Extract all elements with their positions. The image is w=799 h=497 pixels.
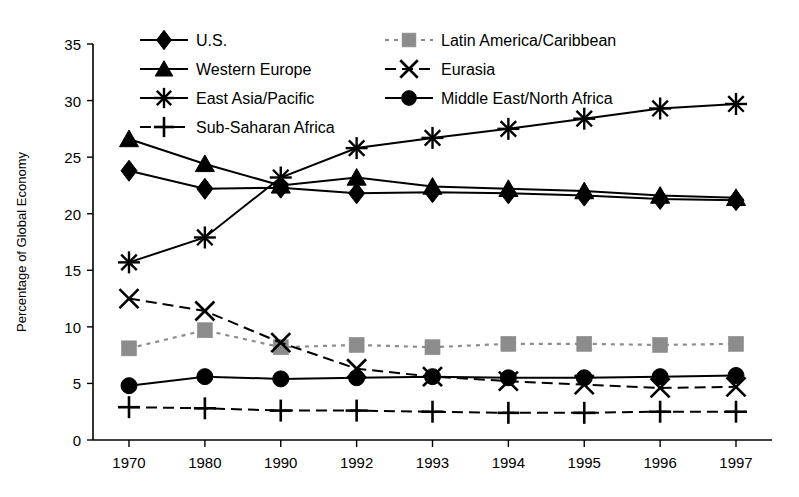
- x-tick-label: 1996: [643, 454, 676, 471]
- marker-plus: [573, 402, 595, 424]
- square-marker: [197, 323, 212, 338]
- series-middle-east-north-africa: [121, 368, 744, 394]
- marker-square: [402, 33, 416, 47]
- marker-square: [653, 337, 668, 352]
- legend-item[interactable]: Middle East/North Africa: [385, 90, 613, 107]
- diamond-marker: [121, 160, 137, 181]
- circle-marker: [425, 369, 441, 385]
- y-tick-label: 15: [64, 262, 81, 279]
- series-group: [118, 93, 747, 424]
- triangle-marker: [347, 169, 366, 186]
- x-tick-label: 1997: [719, 454, 752, 471]
- marker-plus: [649, 401, 671, 423]
- circle-marker: [652, 369, 668, 385]
- marker-circle: [273, 371, 289, 387]
- legend-label: Latin America/Caribbean: [441, 32, 616, 49]
- marker-circle: [500, 370, 516, 386]
- marker-triangle: [120, 130, 139, 147]
- marker-circle: [402, 91, 417, 106]
- marker-square: [501, 336, 516, 351]
- square-marker: [729, 336, 744, 351]
- y-tick-label: 25: [64, 149, 81, 166]
- marker-plus: [118, 396, 140, 418]
- legend: U.S.Western EuropeEast Asia/PacificSub-S…: [140, 30, 616, 137]
- x-tick-label: 1992: [340, 454, 373, 471]
- marker-square: [197, 323, 212, 338]
- marker-circle: [576, 370, 592, 386]
- diamond-marker: [349, 183, 365, 204]
- square-marker: [577, 336, 592, 351]
- diamond-marker: [197, 178, 213, 199]
- marker-asterisk: [649, 97, 671, 119]
- marker-circle: [652, 369, 668, 385]
- square-marker: [349, 337, 364, 352]
- marker-asterisk: [422, 127, 444, 149]
- square-marker: [402, 33, 416, 47]
- y-tick-label: 10: [64, 319, 81, 336]
- marker-x: [120, 289, 139, 308]
- legend-item[interactable]: Western Europe: [140, 61, 311, 78]
- circle-marker: [500, 370, 516, 386]
- series-sub-saharan-africa: [118, 396, 747, 424]
- marker-square: [349, 337, 364, 352]
- circle-marker: [349, 370, 365, 386]
- marker-x: [195, 302, 214, 321]
- marker-plus: [725, 401, 747, 423]
- y-axis-ticks: 05101520253035: [64, 36, 93, 449]
- marker-square: [577, 336, 592, 351]
- y-tick-label: 5: [73, 375, 81, 392]
- legend-label: Western Europe: [196, 61, 311, 78]
- circle-marker: [576, 370, 592, 386]
- marker-diamond: [121, 160, 137, 181]
- x-axis-ticks: 197019801990199219931994199519961997: [112, 440, 752, 471]
- marker-square: [122, 341, 137, 356]
- marker-triangle: [195, 155, 214, 172]
- y-axis-title: Percentage of Global Economy: [14, 152, 29, 332]
- x-tick-label: 1994: [492, 454, 525, 471]
- square-marker: [425, 340, 440, 355]
- circle-marker: [121, 378, 137, 394]
- legend-item[interactable]: Eurasia: [385, 60, 495, 78]
- legend-label: Eurasia: [441, 61, 495, 78]
- marker-asterisk: [118, 251, 140, 273]
- x-tick-label: 1995: [568, 454, 601, 471]
- marker-plus: [270, 400, 292, 422]
- marker-circle: [197, 369, 213, 385]
- circle-marker: [197, 369, 213, 385]
- circle-marker: [273, 371, 289, 387]
- marker-circle: [121, 378, 137, 394]
- marker-plus: [346, 400, 368, 422]
- marker-asterisk: [270, 167, 292, 189]
- marker-circle: [349, 370, 365, 386]
- marker-diamond: [349, 183, 365, 204]
- marker-asterisk: [725, 93, 747, 115]
- y-tick-label: 30: [64, 93, 81, 110]
- legend-label: Sub-Saharan Africa: [196, 119, 335, 136]
- marker-triangle: [347, 169, 366, 186]
- marker-diamond: [157, 30, 172, 49]
- chart-figure: 05101520253035Percentage of Global Econo…: [0, 0, 799, 497]
- legend-label: Middle East/North Africa: [441, 90, 613, 107]
- marker-plus: [497, 402, 519, 424]
- marker-asterisk: [346, 137, 368, 159]
- legend-item[interactable]: Sub-Saharan Africa: [140, 117, 335, 137]
- marker-square: [425, 340, 440, 355]
- y-tick-label: 20: [64, 206, 81, 223]
- series-latin-america-caribbean: [122, 323, 744, 356]
- marker-square: [729, 336, 744, 351]
- legend-item[interactable]: East Asia/Pacific: [140, 88, 314, 108]
- y-tick-label: 0: [73, 432, 81, 449]
- marker-circle: [728, 368, 744, 384]
- x-tick-label: 1993: [416, 454, 449, 471]
- circle-marker: [728, 368, 744, 384]
- y-tick-label: 35: [64, 36, 81, 53]
- x-tick-label: 1970: [112, 454, 145, 471]
- marker-asterisk: [154, 88, 174, 108]
- triangle-marker: [195, 155, 214, 172]
- x-tick-label: 1980: [188, 454, 221, 471]
- legend-item[interactable]: U.S.: [140, 30, 227, 49]
- square-marker: [501, 336, 516, 351]
- marker-asterisk: [497, 118, 519, 140]
- marker-plus: [422, 401, 444, 423]
- legend-item[interactable]: Latin America/Caribbean: [385, 32, 616, 49]
